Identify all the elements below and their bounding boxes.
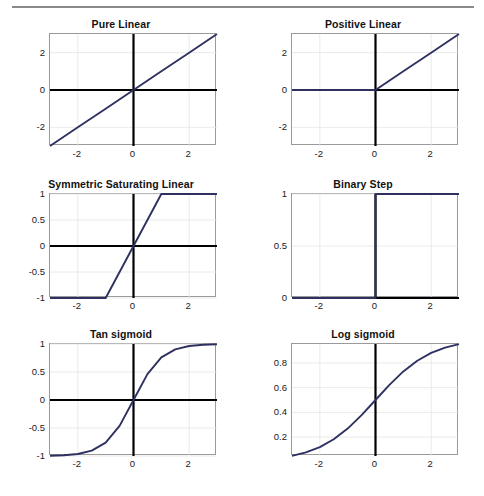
plot-area-symmetric-saturating-linear	[49, 193, 216, 297]
plot-area-pure-linear	[49, 33, 216, 145]
figure-panel-grid: Pure Linear -202-202 Positive Linear -20…	[0, 14, 484, 484]
x-tick-label: 0	[130, 458, 135, 469]
plot-area-positive-linear	[291, 33, 458, 145]
plot-area-log-sigmoid	[291, 343, 458, 455]
plot-title-tan-sigmoid: Tan sigmoid	[0, 328, 242, 340]
y-tick-label: -0.5	[29, 266, 45, 277]
x-tick-label: 0	[372, 458, 377, 469]
y-tick-label: -2	[279, 121, 287, 132]
y-tick-label: 0.4	[274, 406, 287, 417]
x-tick-label: 0	[130, 148, 135, 159]
plot-cell-pure-linear: Pure Linear -202-202	[0, 14, 242, 174]
x-tick-label: 2	[428, 148, 433, 159]
plot-title-symmetric-saturating-linear: Symmetric Saturating Linear	[0, 178, 242, 190]
plot-cell-symmetric-saturating-linear: Symmetric Saturating Linear -1-0.500.51-…	[0, 174, 242, 324]
plot-title-binary-step: Binary Step	[242, 178, 484, 190]
y-tick-label: -1	[37, 292, 45, 303]
y-tick-label: 0.6	[274, 381, 287, 392]
x-tick-label: -2	[73, 458, 81, 469]
plot-area-tan-sigmoid	[49, 343, 216, 455]
plot-area-binary-step	[291, 193, 458, 297]
plot-cell-log-sigmoid: Log sigmoid 0.20.40.60.8-202	[242, 324, 484, 484]
x-tick-label: 2	[186, 148, 191, 159]
plot-title-positive-linear: Positive Linear	[242, 18, 484, 30]
x-tick-label: 0	[130, 300, 135, 311]
y-tick-label: 1	[40, 188, 45, 199]
plot-svg-positive-linear	[292, 34, 459, 146]
y-tick-label: 0	[282, 84, 287, 95]
y-tick-label: 2	[282, 46, 287, 57]
plot-svg-pure-linear	[50, 34, 217, 146]
x-tick-label: 2	[186, 458, 191, 469]
y-tick-label: 0	[40, 240, 45, 251]
plot-cell-tan-sigmoid: Tan sigmoid -1-0.500.51-202	[0, 324, 242, 484]
x-tick-label: 0	[372, 148, 377, 159]
y-tick-label: 0	[40, 84, 45, 95]
plot-cell-binary-step: Binary Step 00.51-202	[242, 174, 484, 324]
y-tick-label: -1	[37, 450, 45, 461]
header-rule	[12, 6, 474, 8]
y-tick-label: 0	[40, 394, 45, 405]
y-tick-label: 0.5	[274, 240, 287, 251]
plot-cell-positive-linear: Positive Linear -202-202	[242, 14, 484, 174]
y-tick-label: -0.5	[29, 422, 45, 433]
y-tick-label: 1	[282, 188, 287, 199]
y-tick-label: -2	[37, 121, 45, 132]
x-tick-label: -2	[315, 300, 323, 311]
x-tick-label: 2	[186, 300, 191, 311]
y-tick-label: 0.8	[274, 356, 287, 367]
y-tick-label: 1	[40, 338, 45, 349]
x-tick-label: 2	[428, 458, 433, 469]
x-tick-label: -2	[315, 148, 323, 159]
x-tick-label: -2	[73, 148, 81, 159]
plot-svg-symmetric-saturating-linear	[50, 194, 217, 298]
x-tick-label: -2	[315, 458, 323, 469]
plot-title-log-sigmoid: Log sigmoid	[242, 328, 484, 340]
plot-svg-log-sigmoid	[292, 344, 459, 456]
x-tick-label: -2	[73, 300, 81, 311]
plot-title-pure-linear: Pure Linear	[0, 18, 242, 30]
y-tick-label: 0.2	[274, 431, 287, 442]
y-tick-label: 0	[282, 292, 287, 303]
plot-svg-binary-step	[292, 194, 459, 298]
plot-svg-tan-sigmoid	[50, 344, 217, 456]
y-tick-label: 2	[40, 46, 45, 57]
y-tick-label: 0.5	[32, 366, 45, 377]
x-tick-label: 0	[372, 300, 377, 311]
y-tick-label: 0.5	[32, 214, 45, 225]
x-tick-label: 2	[428, 300, 433, 311]
